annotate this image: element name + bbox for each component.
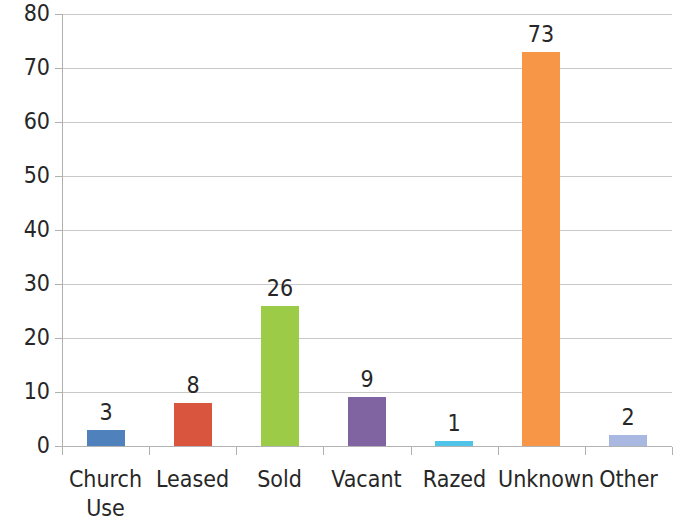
y-axis-tick-mark xyxy=(55,446,62,447)
gridline xyxy=(62,176,672,177)
y-axis-tick-label: 80 xyxy=(0,2,50,25)
x-axis-tick-mark xyxy=(411,447,412,455)
y-axis-tick-label: 70 xyxy=(0,56,50,79)
y-axis-tick-label: 20 xyxy=(0,326,50,349)
gridline xyxy=(62,68,672,69)
x-axis-category-label: Sold xyxy=(236,465,323,494)
y-axis-tick-mark xyxy=(55,68,62,69)
x-axis-tick-mark xyxy=(62,447,63,455)
x-axis-category-label: Unknown xyxy=(498,465,585,494)
y-axis-tick-mark xyxy=(55,230,62,231)
x-axis-category-label: Church Use xyxy=(62,465,149,523)
y-axis-tick-mark xyxy=(55,14,62,15)
x-axis-tick-mark xyxy=(585,447,586,455)
x-axis-tick-mark xyxy=(323,447,324,455)
y-axis-tick-label: 10 xyxy=(0,380,50,403)
y-axis-tick-mark xyxy=(55,284,62,285)
x-axis-tick-mark xyxy=(498,447,499,455)
y-axis-tick-mark xyxy=(55,176,62,177)
y-axis-line xyxy=(62,14,63,447)
x-axis-category-label: Vacant xyxy=(323,465,410,494)
y-axis-tick-label: 60 xyxy=(0,110,50,133)
y-axis-tick-mark xyxy=(55,392,62,393)
gridline xyxy=(62,338,672,339)
bar-chart: 010203040506070803Church Use8Leased26Sol… xyxy=(0,0,680,529)
plot-area xyxy=(62,14,672,446)
gridline xyxy=(62,230,672,231)
y-axis-tick-mark xyxy=(55,338,62,339)
y-axis-tick-label: 40 xyxy=(0,218,50,241)
y-axis-tick-label: 50 xyxy=(0,164,50,187)
x-axis-tick-mark xyxy=(149,447,150,455)
x-axis-tick-mark xyxy=(236,447,237,455)
gridline xyxy=(62,14,672,15)
y-axis-tick-label: 0 xyxy=(0,434,50,457)
gridline xyxy=(62,284,672,285)
y-axis-tick-label: 30 xyxy=(0,272,50,295)
x-axis-category-label: Leased xyxy=(149,465,236,494)
y-axis-tick-mark xyxy=(55,122,62,123)
gridline xyxy=(62,392,672,393)
x-axis-category-label: Razed xyxy=(411,465,498,494)
x-axis-tick-mark xyxy=(672,447,673,455)
axis-baseline xyxy=(62,446,672,447)
x-axis-category-label: Other xyxy=(585,465,672,494)
gridline xyxy=(62,122,672,123)
